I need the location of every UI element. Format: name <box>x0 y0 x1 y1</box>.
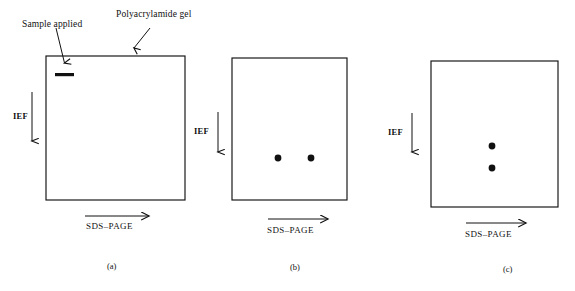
panel-a-caption: (a) <box>107 262 116 271</box>
panel-c-gel-outline <box>431 61 558 207</box>
panel-b-protein-spots <box>275 155 315 162</box>
callout-label-polyacrylamide-gel: Polyacrylamide gel <box>116 10 191 20</box>
panel-b-gel-outline <box>232 58 347 200</box>
panel-a-sample-band <box>55 73 74 76</box>
callout-sample-applied-arrow <box>56 28 65 63</box>
panel-c-ief-label: IEF <box>388 128 403 137</box>
figure-canvas <box>0 0 575 291</box>
panel-c-sds-label: SDS–PAGE <box>465 230 512 239</box>
two-dimensional-electrophoresis-figure: Sample applied Polyacrylamide gel IEF SD… <box>0 0 575 291</box>
panel-a-gel-outline <box>46 56 185 200</box>
callout-polyacrylamide-gel-arrow <box>134 28 150 48</box>
panel-a-sds-label: SDS–PAGE <box>86 222 133 231</box>
panel-b-ief-label: IEF <box>194 127 209 136</box>
panel-c-caption: (c) <box>503 265 512 274</box>
callout-label-sample-applied: Sample applied <box>22 20 82 30</box>
panel-b-caption: (b) <box>290 263 300 272</box>
panel-a-ief-label: IEF <box>13 112 28 121</box>
panel-c-protein-spots <box>489 143 496 172</box>
panel-b-sds-label: SDS–PAGE <box>267 226 314 235</box>
